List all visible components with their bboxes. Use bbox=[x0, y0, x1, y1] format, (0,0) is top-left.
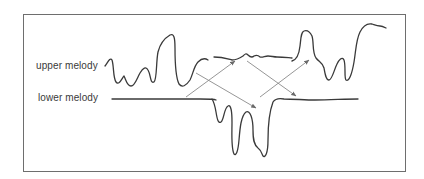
lower-melody-line-left bbox=[112, 99, 216, 100]
upper-melody-line-left bbox=[105, 35, 208, 87]
diagram-canvas bbox=[0, 0, 424, 179]
upper-melody-line-right bbox=[292, 24, 386, 80]
arrow-upper-to-lower-1 bbox=[196, 73, 256, 108]
melody-crossing-diagram: upper melody lower melody bbox=[0, 0, 424, 179]
lower-melody-line-dip bbox=[212, 99, 358, 157]
arrow-upper-to-lower-2 bbox=[247, 61, 296, 96]
arrow-lower-to-upper-2 bbox=[260, 60, 309, 97]
upper-melody-line-middle bbox=[214, 54, 292, 60]
